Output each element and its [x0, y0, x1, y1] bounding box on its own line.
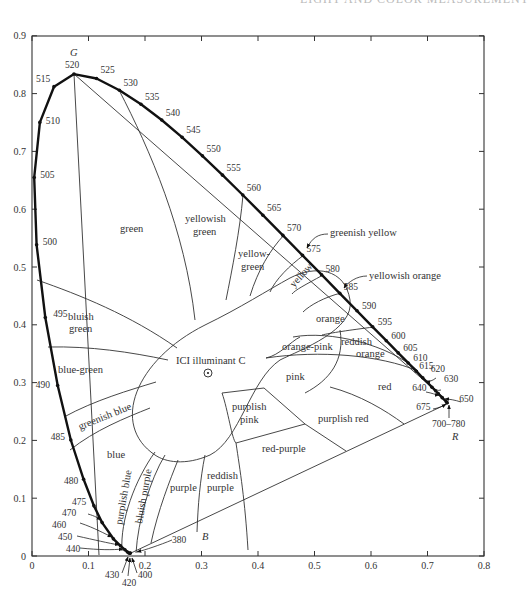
- wavelength-marker: [221, 173, 225, 177]
- wavelength-label: 565: [267, 203, 282, 213]
- region-bluish-green-2: green: [69, 323, 93, 334]
- region-purplish-pink-1: purplish: [232, 401, 267, 412]
- wavelength-marker: [201, 154, 205, 158]
- region-purplish-red: purplish red: [318, 413, 369, 424]
- x-tick-label: 0.1: [82, 560, 95, 571]
- region-reddish-orange-2: orange: [356, 348, 385, 359]
- wavelength-label: 505: [40, 170, 55, 180]
- region-yellowish-green-2: green: [193, 226, 217, 237]
- illuminant-c-marker: [204, 369, 212, 377]
- region-blue: blue: [107, 449, 125, 460]
- wavelength-marker: [95, 77, 99, 81]
- wavelength-marker: [396, 351, 400, 355]
- region-greenish-blue: greenish blue: [77, 400, 134, 431]
- wavelength-label: 575: [307, 244, 322, 254]
- region-orange-pink: orange-pink: [282, 341, 333, 352]
- wavelength-marker: [112, 537, 116, 541]
- wavelength-label: 580: [326, 264, 341, 274]
- x-tick-label: 0.6: [365, 560, 378, 571]
- wavelength-label: 515: [36, 74, 51, 84]
- label-B: B: [202, 531, 209, 542]
- wavelength-marker: [43, 316, 47, 320]
- x-tick-label: 0: [30, 560, 35, 571]
- wavelength-label: 460: [52, 520, 67, 530]
- y-tick-label: 0.1: [14, 493, 27, 504]
- wavelength-label: 520: [65, 60, 80, 70]
- region-boundaries: [37, 74, 449, 555]
- wavelength-marker: [35, 243, 39, 247]
- wavelength-label: 570: [287, 223, 302, 233]
- wavelength-label: 590: [362, 301, 377, 311]
- wavelength-label: 440: [66, 544, 81, 554]
- region-reddish-orange-1: reddish: [341, 336, 373, 347]
- region-yellowish-orange: yellowish orange: [369, 270, 441, 281]
- wavelength-label: 480: [64, 476, 79, 486]
- x-tick-label: 0.5: [308, 560, 321, 571]
- y-tick-label: 0.3: [14, 377, 27, 388]
- wavelength-label: 510: [46, 116, 61, 126]
- region-purplish-pink-2: pink: [240, 414, 259, 425]
- wavelength-marker: [421, 376, 425, 380]
- wavelength-marker: [281, 234, 285, 238]
- region-reddish-purple-2: purple: [207, 482, 234, 493]
- wavelength-label: 675: [416, 402, 431, 412]
- wavelength-marker: [261, 213, 265, 217]
- y-tick-label: 0.9: [14, 30, 27, 41]
- wavelength-marker: [180, 136, 184, 140]
- wavelength-label: 595: [378, 317, 393, 327]
- wavelength-marker: [440, 396, 444, 400]
- wavelength-marker: [56, 384, 60, 388]
- wavelength-marker: [241, 193, 245, 197]
- wavelength-labels: 3804004204304404504604704754804854904955…: [36, 60, 474, 588]
- label-illuminant-c: ICI illuminant C: [176, 355, 245, 366]
- region-yellow-green-2: green: [241, 261, 265, 272]
- wavelength-label: 420: [122, 578, 137, 588]
- region-red: red: [378, 381, 392, 392]
- wavelength-label: 650: [459, 394, 474, 404]
- wavelength-marker: [100, 521, 104, 525]
- wavelength-label: 605: [403, 343, 418, 353]
- wavelength-marker: [384, 339, 388, 343]
- x-tick-label: 0.4: [252, 560, 265, 571]
- wavelength-label: 585: [344, 282, 359, 292]
- y-tick-label: 0.4: [14, 319, 27, 330]
- wavelength-label: 545: [186, 125, 201, 135]
- wavelength-marker: [123, 548, 127, 552]
- region-green: green: [120, 223, 144, 234]
- wavelength-marker: [38, 121, 42, 125]
- wavelength-label: 485: [51, 432, 66, 442]
- x-tick-label: 0.7: [421, 560, 434, 571]
- region-pink: pink: [286, 371, 305, 382]
- wavelength-marker: [371, 325, 375, 329]
- y-axis-tick-labels: 00.10.20.30.40.50.60.70.80.9: [14, 30, 27, 561]
- wavelength-label: 475: [72, 497, 87, 507]
- wavelength-label: 400: [138, 570, 153, 580]
- wavelength-marker: [338, 292, 342, 296]
- wavelength-marker: [301, 254, 305, 258]
- region-reddish-purple-1: reddish: [207, 470, 239, 481]
- wavelength-label: 700–780: [432, 419, 466, 429]
- x-tick-label: 0.8: [478, 560, 491, 571]
- region-labels: green yellowish green yellow- green gree…: [58, 213, 441, 525]
- region-purple: purple: [170, 482, 197, 493]
- region-purplish-blue: purplish blue: [113, 469, 133, 526]
- wavelength-label: 620: [431, 364, 446, 374]
- x-tick-label: 0.3: [195, 560, 208, 571]
- wavelength-marker: [320, 273, 324, 277]
- wavelength-marker: [160, 118, 164, 122]
- y-tick-label: 0.2: [14, 435, 27, 446]
- wavelength-label: 630: [444, 374, 459, 384]
- wavelength-label: 530: [123, 78, 138, 88]
- wavelength-label: 470: [62, 508, 77, 518]
- region-yellow-green-1: yellow-: [238, 248, 271, 259]
- y-tick-label: 0.6: [14, 204, 27, 215]
- y-tick-label: 0.5: [14, 262, 27, 273]
- wavelength-label: 560: [247, 183, 262, 193]
- wavelength-label: 450: [58, 532, 73, 542]
- wavelength-label: 430: [105, 570, 120, 580]
- wavelength-marker: [118, 88, 122, 92]
- wavelength-label: 640: [412, 383, 427, 393]
- region-orange: orange: [316, 313, 345, 324]
- wavelength-label: 525: [101, 65, 116, 75]
- region-greenish-yellow: greenish yellow: [330, 227, 397, 238]
